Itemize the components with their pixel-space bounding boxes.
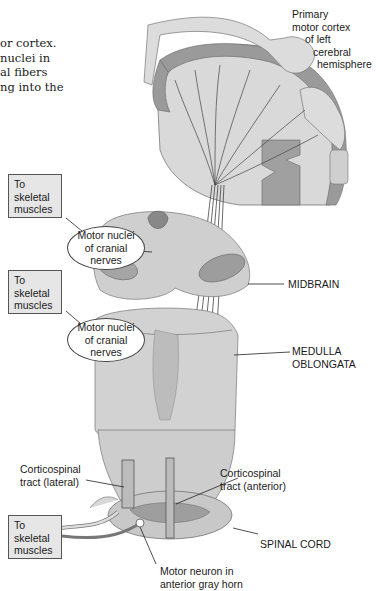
label-line: of cranial <box>68 334 144 347</box>
ellipse-motor-nuclei-cranial-nerves-1: Motor nuclei of cranial nerves <box>67 226 145 270</box>
caption-line: nuclei in <box>0 51 64 66</box>
spinal-cord-drawing <box>62 430 235 539</box>
caption-line: ng into the <box>0 80 64 95</box>
label-line: muscles <box>14 544 56 557</box>
label-line: To <box>14 274 56 287</box>
label-line: cerebral <box>292 46 372 59</box>
label-line: of cranial <box>68 242 144 255</box>
label-medulla-oblongata: MEDULLA OBLONGATA <box>292 345 356 370</box>
caption-line: or cortex. <box>0 36 64 51</box>
box-to-skeletal-muscles-2: To skeletal muscles <box>8 270 62 314</box>
label-line: motor cortex <box>292 21 372 34</box>
label-spinal-cord: SPINAL CORD <box>260 538 331 551</box>
box-to-skeletal-muscles-3: To skeletal muscles <box>8 515 62 559</box>
label-corticospinal-tract-anterior: Corticospinal tract (anterior) <box>220 467 286 492</box>
ellipse-motor-nuclei-cranial-nerves-2: Motor nuclei of cranial nerves <box>67 318 145 362</box>
label-line: Motor nuclei <box>68 229 144 242</box>
caption-line: al fibers <box>0 65 64 80</box>
label-line: Motor neuron in <box>160 565 243 578</box>
label-line: To <box>14 519 56 532</box>
label-line: nerves <box>68 254 144 267</box>
label-line: skeletal <box>14 287 56 300</box>
label-line: hemisphere <box>292 58 372 71</box>
label-line: Corticospinal <box>20 463 81 476</box>
label-line: muscles <box>14 203 56 216</box>
label-line: of left <box>292 33 372 46</box>
label-line: OBLONGATA <box>292 358 356 371</box>
label-line: skeletal <box>14 191 56 204</box>
label-line: tract (anterior) <box>220 480 286 493</box>
box-to-skeletal-muscles-1: To skeletal muscles <box>8 174 62 218</box>
label-primary-motor-cortex: Primary motor cortex of left cerebral he… <box>292 8 372 71</box>
label-line: anterior gray horn <box>160 578 243 591</box>
label-corticospinal-tract-lateral: Corticospinal tract (lateral) <box>20 463 81 488</box>
label-midbrain: MIDBRAIN <box>288 278 339 291</box>
label-line: To <box>14 178 56 191</box>
label-line: Motor nuclei <box>68 321 144 334</box>
label-motor-neuron-anterior-gray-horn: Motor neuron in anterior gray horn <box>160 565 243 590</box>
label-line: tract (lateral) <box>20 476 81 489</box>
label-line: skeletal <box>14 532 56 545</box>
label-line: Primary <box>292 8 372 21</box>
label-line: muscles <box>14 299 56 312</box>
label-line: Corticospinal <box>220 467 286 480</box>
label-line: nerves <box>68 346 144 359</box>
label-line: MEDULLA <box>292 345 356 358</box>
caption-fragment: or cortex. nuclei in al fibers ng into t… <box>0 36 64 94</box>
